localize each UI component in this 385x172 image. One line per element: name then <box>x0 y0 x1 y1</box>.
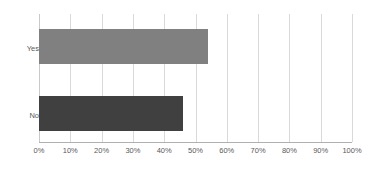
bar-no <box>39 96 183 131</box>
bar-chart: Yes No 0%10%20%30%40%50%60%70%80%90%100% <box>0 0 385 172</box>
gridline-60 <box>227 14 228 142</box>
x-tick-label-100: 100% <box>332 147 372 155</box>
gridline-100 <box>352 14 353 142</box>
gridline-90 <box>321 14 322 142</box>
plot-area <box>39 14 352 142</box>
gridline-70 <box>258 14 259 142</box>
gridline-80 <box>289 14 290 142</box>
category-label-yes: Yes <box>0 45 39 53</box>
category-label-no: No <box>0 112 39 120</box>
x-axis-line <box>39 142 352 143</box>
bar-yes <box>39 29 208 64</box>
